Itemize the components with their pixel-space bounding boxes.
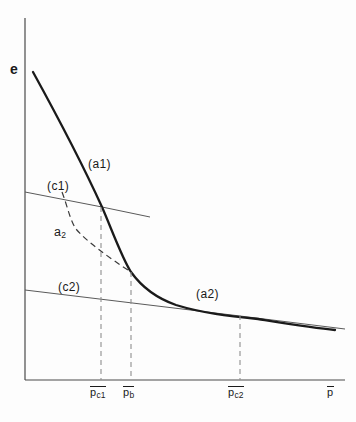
curve-label-a2-dashed: a2 (54, 226, 66, 240)
tick-label-pb-sub: b (130, 390, 135, 400)
y-axis-label: e (10, 62, 18, 76)
tick-label-pc2: pc2 (228, 386, 244, 400)
tick-label-pc2-sub: c2 (235, 390, 244, 400)
curve-label-c2: (c2) (58, 281, 80, 293)
x-axis-label: p (327, 386, 334, 398)
curve-a2-dashed (62, 192, 131, 272)
curve-label-a2-sub: 2 (61, 230, 66, 240)
curve-c1 (25, 192, 150, 217)
curve-label-c1: (c1) (47, 180, 69, 192)
tick-label-pc1: pc1 (90, 386, 106, 400)
tick-label-pc1-sub: c1 (97, 390, 106, 400)
curve-c2 (25, 290, 345, 329)
curve-label-a2: (a2) (196, 288, 219, 300)
curve-label-a1: (a1) (88, 158, 111, 170)
x-axis-label-base: p (327, 386, 334, 398)
figure-canvas: e (a1) (c1) a2 (c2) (a2) pc1 pb pc2 p (0, 0, 356, 422)
tick-label-pb: pb (123, 386, 134, 400)
plot-svg (0, 0, 356, 422)
